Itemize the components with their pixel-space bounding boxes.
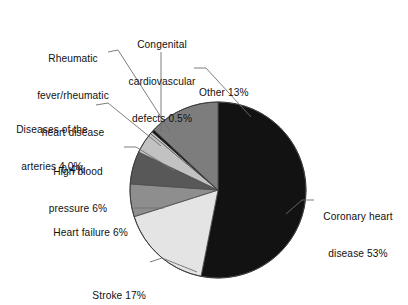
callout-stroke-line1: Stroke 17% (58, 290, 146, 302)
pie-chart-figure: Rheumatic fever/rheumatic heart disease … (0, 0, 408, 305)
callout-label-heart-failure: Heart failure 6% (14, 202, 128, 264)
callout-label-other: Other 13% (199, 62, 289, 124)
callout-heart-failure-line1: Heart failure 6% (14, 227, 128, 239)
callout-coronary-line1: Coronary heart (312, 211, 404, 223)
callout-hbp-line1: High blood (32, 166, 124, 178)
callout-congenital-line1: Congenital (112, 39, 212, 51)
callout-congenital-line3: defects 0.5% (112, 113, 212, 125)
callout-label-stroke: Stroke 17% (58, 265, 146, 305)
callout-congenital-line2: cardiovascular (112, 76, 212, 88)
callout-label-congenital: Congenital cardiovascular defects 0.5% (112, 14, 212, 150)
callout-other-line1: Other 13% (199, 87, 289, 99)
callout-label-coronary: Coronary heart disease 53% (312, 186, 404, 285)
callout-arteries-line1: Diseases of the (6, 124, 98, 136)
callout-coronary-line2: disease 53% (312, 248, 404, 260)
